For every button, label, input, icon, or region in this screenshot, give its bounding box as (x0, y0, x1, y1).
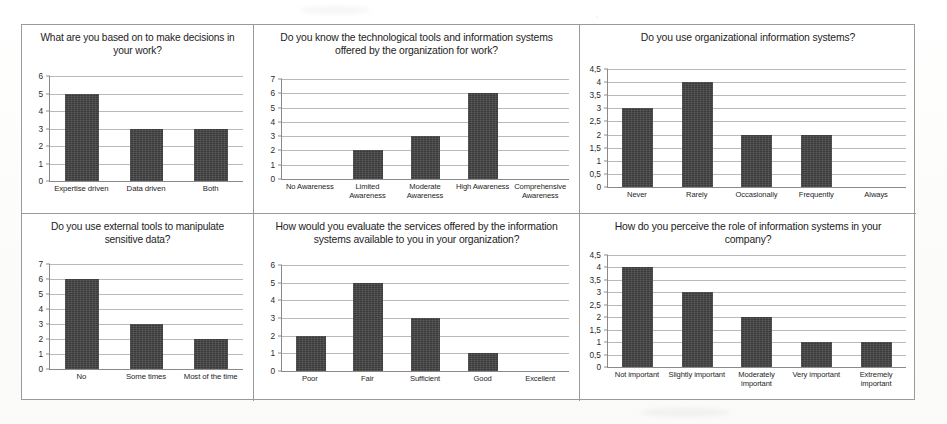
y-axis-tick-label: 3 (270, 313, 275, 323)
y-axis-tick-label: 5 (270, 103, 275, 113)
x-axis-tick-label: Limited Awareness (339, 182, 397, 200)
bar (861, 342, 892, 367)
y-axis-tick-label: 2 (270, 145, 275, 155)
chart-title: Do you use external tools to manipulate … (22, 214, 253, 248)
y-axis-tick-label: 6 (270, 88, 275, 98)
x-axis-labels: No AwarenessLimited AwarenessModerate Aw… (281, 179, 569, 200)
plot-area (49, 76, 243, 182)
x-axis-tick-label: Extremely important (846, 370, 906, 388)
plot: 01234567NoSome timesMost of the time (22, 264, 245, 389)
y-axis-tick-label: 2 (596, 130, 601, 140)
x-axis-tick-label: Never (607, 190, 667, 199)
plot: 0123456PoorFairSufficientGoodExcellent (254, 265, 571, 389)
bar (741, 317, 772, 367)
plot-region: 00,511,522,533,544,5Not importantSlightl… (580, 255, 916, 393)
y-axis-tick-label: 0 (596, 182, 601, 192)
x-axis-tick-label: Moderate Awareness (396, 182, 454, 200)
chart-title: How would you evaluate the services offe… (254, 214, 579, 248)
y-axis-tick-label: 0,5 (589, 169, 601, 179)
bar-slot (339, 79, 396, 179)
bar (741, 135, 772, 187)
chart-title: How do you perceive the role of informat… (580, 214, 916, 248)
y-axis: 00,511,522,533,544,5 (580, 255, 604, 367)
x-axis-tick-label: Excellent (511, 374, 569, 383)
y-axis-tick-label: 1 (38, 349, 43, 359)
x-axis-tick-label: Both (178, 184, 243, 193)
bar-slot (668, 69, 728, 187)
plot-area (607, 69, 906, 188)
bar (468, 93, 498, 179)
chart-panel-external-tools: Do you use external tools to manipulate … (22, 214, 254, 401)
bar (65, 279, 98, 369)
chart-panel-perceived-role: How do you perceive the role of informat… (580, 214, 916, 401)
bar-slot (454, 79, 511, 179)
y-axis-tick-label: 3,5 (589, 275, 601, 285)
bar (801, 342, 832, 367)
x-axis-tick-label: Comprehensive Awareness (511, 182, 569, 200)
y-axis-tick-label: 0 (38, 176, 43, 186)
x-axis-tick-label: Sufficient (396, 374, 454, 383)
y-axis-tick-label: 3 (38, 319, 43, 329)
bar (194, 129, 227, 182)
chart-panel-system-usage: Do you use organizational information sy… (580, 25, 916, 214)
y-axis-tick-label: 5 (38, 289, 43, 299)
chart-panel-tool-awareness: Do you know the technological tools and … (254, 25, 580, 214)
x-axis-tick-label: Fair (339, 374, 397, 383)
bar-slot (512, 265, 569, 371)
plot-area (281, 79, 569, 180)
chart-title: What are you based on to make decisions … (22, 25, 253, 59)
y-axis-tick-label: 2 (38, 334, 43, 344)
bar (622, 108, 653, 187)
y-axis-tick-label: 4,5 (589, 64, 601, 74)
bar-slot (668, 255, 728, 367)
x-axis-tick-label: Most of the time (178, 372, 243, 381)
x-axis-labels: PoorFairSufficientGoodExcellent (281, 371, 569, 383)
plot-area (49, 264, 243, 370)
bar-slot (787, 255, 847, 367)
y-axis-tick-label: 1 (38, 159, 43, 169)
chart-panel-decision-basis: What are you based on to make decisions … (22, 25, 254, 214)
y-axis-tick-label: 2 (596, 312, 601, 322)
y-axis-tick-label: 0 (270, 366, 275, 376)
x-axis-labels: Expertise drivenData drivenBoth (49, 181, 243, 193)
x-axis-tick-label: Poor (281, 374, 339, 383)
plot: 00,511,522,533,544,5Not importantSlightl… (580, 255, 908, 393)
y-axis-tick-label: 1 (270, 348, 275, 358)
bar-slot (114, 264, 178, 369)
x-axis-tick-label: Not important (607, 370, 667, 388)
bar-slot (727, 255, 787, 367)
x-axis-tick-label: Good (454, 374, 512, 383)
y-axis: 01234567 (254, 79, 278, 179)
plot-area (281, 265, 569, 372)
plot-area (607, 255, 906, 368)
bar-slot (339, 265, 396, 371)
bar (468, 353, 498, 371)
bar-slot (608, 255, 668, 367)
y-axis-tick-label: 0 (270, 174, 275, 184)
y-axis-tick-label: 4 (596, 262, 601, 272)
y-axis-tick-label: 1 (270, 160, 275, 170)
y-axis-tick-label: 0 (596, 362, 601, 372)
x-axis-labels: Not importantSlightly importantModeratel… (607, 367, 906, 388)
y-axis-tick-label: 6 (38, 274, 43, 284)
bar (622, 267, 653, 367)
bar-slot (114, 76, 178, 181)
chart-title: Do you know the technological tools and … (254, 25, 579, 59)
bar (682, 82, 713, 187)
plot-region: 01234567No AwarenessLimited AwarenessMod… (254, 79, 579, 205)
x-axis-tick-label: Rarely (667, 190, 727, 199)
y-axis-tick-label: 3,5 (589, 90, 601, 100)
x-axis-tick-label: No Awareness (281, 182, 339, 200)
y-axis-tick-label: 1 (596, 156, 601, 166)
plot-region: 00,511,522,533,544,5NeverRarelyOccasiona… (580, 69, 916, 203)
y-axis: 01234567 (22, 264, 46, 369)
y-axis: 00,511,522,533,544,5 (580, 69, 604, 187)
y-axis: 0123456 (22, 76, 46, 181)
bar (194, 339, 227, 369)
x-axis-tick-label: High Awareness (454, 182, 512, 200)
y-axis-tick-label: 4 (596, 77, 601, 87)
bar-slot (397, 79, 454, 179)
bar-slot (727, 69, 787, 187)
bar-slot (50, 264, 114, 369)
bar-slot (608, 69, 668, 187)
